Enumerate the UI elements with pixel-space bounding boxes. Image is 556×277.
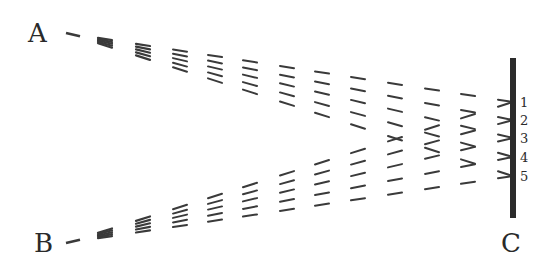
- point-label-3: 3: [520, 131, 528, 146]
- ray-stub: [66, 33, 80, 36]
- ray-dash: [388, 122, 402, 126]
- ray-dash: [388, 178, 402, 181]
- ray-dash: [208, 78, 222, 83]
- ray-dash: [388, 193, 402, 195]
- ray-dash: [280, 92, 294, 96]
- point-label-1: 1: [520, 95, 528, 110]
- ray-dash: [315, 71, 329, 73]
- ray-dash: [208, 194, 222, 198]
- ray-dash: [498, 103, 511, 107]
- ray-dash: [351, 198, 365, 200]
- ray-dash: [280, 66, 294, 68]
- screen-c: [510, 58, 516, 218]
- ray-dash: [315, 192, 329, 195]
- ray-dash: [461, 94, 475, 96]
- ray-dash: [173, 67, 187, 72]
- ray-dash: [243, 75, 257, 78]
- ray-dash: [243, 183, 257, 187]
- ray-dash: [351, 124, 365, 129]
- ray-dash: [351, 89, 365, 92]
- ray-dash: [461, 147, 475, 150]
- ray-dash: [243, 190, 257, 194]
- ray-dash: [173, 205, 187, 209]
- label-c: C: [501, 228, 521, 258]
- ray-dash: [315, 82, 329, 85]
- interference-diagram: A B C 1 2 3 4 5: [0, 0, 556, 277]
- ray-dash: [208, 200, 222, 204]
- ray-dash: [425, 117, 439, 120]
- point-labels: 1 2 3 4 5: [520, 95, 528, 184]
- ray-dash: [425, 148, 439, 153]
- ray-dash: [208, 72, 222, 76]
- ray-dash: [315, 92, 329, 95]
- ray-dash: [173, 50, 187, 52]
- ray-dash: [243, 82, 257, 86]
- ray-dash: [425, 187, 439, 189]
- ray-dash: [208, 66, 222, 69]
- ray-dash: [208, 61, 222, 64]
- ray-dash: [351, 173, 365, 176]
- ray-dash: [461, 143, 475, 147]
- ray-dash: [280, 209, 294, 211]
- ray-dash: [498, 135, 511, 138]
- ray-dash: [243, 60, 257, 62]
- ray-dash: [173, 210, 187, 214]
- ray-dash: [425, 133, 439, 137]
- ray-dash: [351, 149, 365, 153]
- ray-dash: [498, 157, 511, 160]
- ray-dash: [388, 109, 402, 112]
- ray-dash: [425, 155, 439, 158]
- ray-dash: [498, 117, 511, 120]
- ray-dash: [498, 139, 511, 142]
- label-a: A: [27, 18, 48, 48]
- point-label-5: 5: [520, 169, 528, 184]
- ray-dash: [498, 121, 511, 125]
- rays-from-b: [66, 103, 511, 243]
- ray-dash: [173, 220, 187, 223]
- ray-stub: [66, 240, 80, 243]
- ray-dash: [425, 140, 439, 144]
- ray-dash: [461, 164, 475, 167]
- ray-dash: [498, 171, 511, 175]
- ray-dash: [243, 90, 257, 95]
- ray-dash: [173, 58, 187, 61]
- ray-dash: [461, 110, 475, 113]
- ray-dash: [280, 75, 294, 78]
- ray-dash: [461, 114, 475, 118]
- ray-dash: [173, 63, 187, 67]
- ray-dash: [243, 206, 257, 209]
- ray-dash: [425, 171, 439, 174]
- ray-dash: [351, 100, 365, 103]
- ray-dash: [388, 151, 402, 155]
- ray-dash: [315, 171, 329, 175]
- ray-dash: [498, 100, 511, 102]
- ray-dash: [425, 103, 439, 106]
- ray-dash: [461, 182, 475, 184]
- label-b: B: [34, 228, 53, 258]
- ray-dash: [315, 160, 329, 165]
- ray-dash: [208, 213, 222, 216]
- ray-dash: [388, 164, 402, 167]
- ray-dash: [425, 125, 439, 130]
- ray-dash: [461, 159, 475, 163]
- ray-dash: [280, 180, 294, 184]
- ray-dash: [173, 225, 187, 227]
- ray-dash: [388, 96, 402, 99]
- ray-dash: [280, 199, 294, 202]
- ray-dash: [315, 102, 329, 106]
- ray-dash: [498, 153, 511, 157]
- ray-dash: [461, 126, 475, 129]
- ray-dash: [173, 54, 187, 57]
- ray-dash: [280, 83, 294, 86]
- ray-dash: [315, 113, 329, 117]
- ray-dash: [461, 131, 475, 135]
- ray-dash: [351, 186, 365, 189]
- ray-dash: [351, 112, 365, 116]
- ray-dash: [173, 215, 187, 218]
- ray-dash: [208, 206, 222, 209]
- ray-dash: [388, 83, 402, 85]
- ray-dash: [208, 55, 222, 57]
- ray-dash: [351, 77, 365, 79]
- ray-dash: [280, 189, 294, 192]
- ray-dash: [280, 171, 294, 175]
